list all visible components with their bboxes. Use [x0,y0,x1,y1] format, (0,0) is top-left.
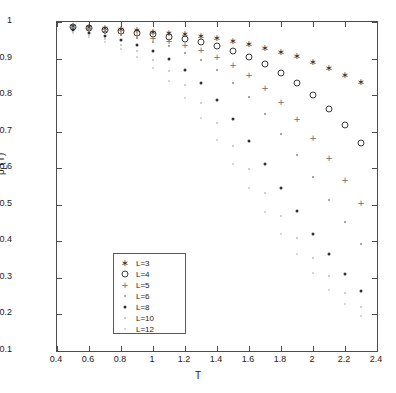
data-point [342,122,349,129]
data-point: + [357,198,365,207]
data-point [216,98,219,101]
x-axis-tick [185,346,186,351]
legend-marker-icon [118,269,132,280]
data-point [264,192,266,194]
data-point [344,221,346,223]
data-point [296,253,298,255]
legend-item[interactable]: L=12 [114,324,187,335]
data-point [246,53,253,60]
y-axis-tick [57,59,62,60]
data-point [88,31,91,34]
data-point [104,32,106,34]
data-point: + [69,23,77,32]
y-axis-tick [57,351,62,352]
data-point [264,211,266,213]
data-point [104,38,106,40]
data-point [184,84,186,86]
legend-marker-icon [118,291,132,302]
data-point [264,113,266,115]
data-point [296,237,298,239]
legend-marker-icon [118,302,132,313]
data-point [200,117,202,119]
data-point [280,186,283,189]
legend-item[interactable]: L=6 [114,291,187,302]
data-point [152,49,155,52]
x-axis-tick [89,22,90,27]
data-point [200,59,202,61]
y-axis-tick [57,314,62,315]
data-point [184,97,186,99]
data-point [312,232,315,235]
data-point [310,92,317,99]
data-point [262,61,269,68]
data-point: ∗ [101,24,109,33]
data-point [312,257,314,259]
data-point [150,31,157,38]
legend-item[interactable]: L=4 [114,269,187,280]
data-point [280,233,282,235]
data-point [280,215,282,217]
data-point [136,37,138,39]
data-point: ∗ [149,27,157,36]
y-axis-tick-label: 0.7 [0,126,12,135]
data-point [358,140,365,147]
x-axis-tick [121,346,122,351]
x-axis-tick [377,22,378,27]
y-axis-tick-label: 0.3 [0,272,12,281]
plot-area: ∗∗∗∗∗∗∗∗∗∗∗∗∗∗∗∗∗∗∗+++++++++++++++++++ ∗… [56,21,378,352]
data-point: ∗ [197,32,205,41]
data-point [88,36,90,38]
data-point: + [181,41,189,50]
data-point: + [165,37,173,46]
y-axis-tick-label: 0.1 [0,345,12,354]
data-point [184,68,187,71]
y-axis-tick [372,241,377,242]
legend-item[interactable]: ∗L=3 [114,258,187,269]
data-point: ∗ [325,64,333,73]
data-point [232,82,234,84]
x-axis-tick-label: 2.4 [370,355,383,364]
data-point [88,29,90,31]
data-point [360,290,363,293]
data-point [70,24,77,31]
data-point: ∗ [277,47,285,56]
data-point: + [197,46,205,55]
legend-marker-icon [118,313,132,324]
data-point: ∗ [293,52,301,61]
legend[interactable]: ∗L=3L=4+L=5L=6L=8L=10L=12 [113,253,186,334]
x-axis-tick [313,346,314,351]
x-axis-tick-label: 0.6 [82,355,95,364]
y-axis-tick [372,168,377,169]
data-point: ∗ [213,34,221,43]
y-axis-tick [57,95,62,96]
y-axis-tick [372,95,377,96]
data-point [136,50,138,52]
data-point: ∗ [165,28,173,37]
y-axis-tick-label: 0.4 [0,235,12,244]
data-point [184,52,186,54]
data-point [120,48,122,50]
x-axis-tick [313,22,314,27]
data-point [328,199,330,201]
legend-marker-icon: ∗ [118,258,132,269]
data-point: + [309,133,317,142]
data-point [232,118,235,121]
data-point [168,58,171,61]
legend-item[interactable]: L=8 [114,302,187,313]
data-point [328,275,330,277]
data-point [248,139,251,142]
legend-item[interactable]: L=10 [114,313,187,324]
data-point [182,36,189,43]
x-axis-tick-label: 1.2 [178,355,191,364]
legend-item-label: L=4 [136,270,150,279]
data-point: ∗ [341,70,349,79]
x-axis-tick [121,22,122,27]
y-axis-tick [372,351,377,352]
y-axis-tick [372,278,377,279]
data-point [72,31,74,33]
x-axis-tick-label: 1.4 [210,355,223,364]
data-point [360,315,362,317]
legend-item[interactable]: +L=5 [114,280,187,291]
x-axis-tick [249,346,250,351]
data-point [152,59,154,61]
